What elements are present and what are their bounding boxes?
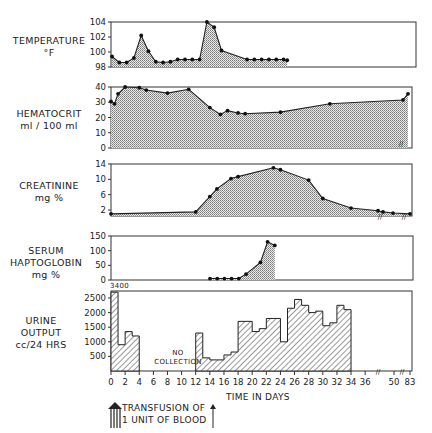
temperature-label: TEMPERATURE°F — [0, 35, 98, 59]
svg-text:100: 100 — [90, 246, 106, 256]
temperature-point — [154, 60, 158, 64]
svg-text:30: 30 — [95, 97, 106, 107]
creatinine-point — [236, 175, 240, 179]
hematocrit-point — [328, 102, 332, 106]
no-collection-annotation: NOCOLLECTION — [138, 349, 218, 367]
svg-text:28: 28 — [303, 377, 314, 387]
temperature-point — [245, 58, 249, 62]
svg-text:50: 50 — [95, 260, 106, 270]
svg-text:14: 14 — [95, 159, 106, 169]
hematocrit-point — [219, 113, 223, 117]
svg-text:1000: 1000 — [84, 337, 106, 347]
svg-text:2: 2 — [101, 205, 106, 215]
temperature-point — [212, 25, 216, 29]
svg-text:2: 2 — [122, 377, 127, 387]
temperature-point — [190, 58, 194, 62]
hematocrit-point — [236, 111, 240, 115]
temperature-point — [139, 34, 143, 38]
svg-text:1500: 1500 — [84, 322, 106, 332]
svg-text:34: 34 — [346, 377, 357, 387]
creatinine-point — [321, 197, 325, 201]
hematocrit-point — [137, 86, 141, 90]
svg-text://: // — [376, 368, 381, 376]
svg-text:98: 98 — [95, 62, 106, 72]
svg-text://: // — [399, 140, 404, 148]
temperature-point — [183, 58, 187, 62]
temperature-point — [125, 61, 129, 65]
svg-text:20: 20 — [247, 377, 258, 387]
temperature-point — [205, 20, 209, 24]
haptoglobin-point — [266, 240, 270, 244]
svg-text:40: 40 — [95, 82, 106, 92]
urine-bars-segment-1 — [196, 299, 351, 371]
svg-text://: // — [400, 368, 405, 376]
svg-text:22: 22 — [261, 377, 272, 387]
haptoglobin-point — [223, 277, 227, 281]
svg-text:83: 83 — [405, 377, 416, 387]
creatinine-point — [307, 178, 311, 182]
haptoglobin-point — [237, 277, 241, 281]
haptoglobin-point — [259, 261, 263, 265]
overflow-value-label: 3400 — [110, 282, 129, 291]
svg-text:26: 26 — [289, 377, 300, 387]
haptoglobin-point — [215, 277, 219, 281]
hematocrit-point — [113, 102, 117, 106]
svg-text:0: 0 — [108, 377, 113, 387]
svg-text:0: 0 — [101, 143, 106, 153]
temperature-point — [147, 49, 151, 53]
svg-text:14: 14 — [204, 377, 215, 387]
temperature-point — [132, 56, 136, 60]
urine-bars-segment-0 — [111, 292, 139, 371]
temperature-point — [285, 58, 289, 62]
hematocrit-area — [111, 87, 408, 148]
svg-text:8: 8 — [165, 377, 170, 387]
single-arrow-icon — [210, 404, 216, 428]
creatinine-label: CREATININEmg % — [0, 180, 98, 204]
svg-text:2500: 2500 — [84, 293, 106, 303]
hematocrit-point — [226, 109, 230, 113]
temperature-point — [161, 61, 165, 65]
svg-text:16: 16 — [219, 377, 230, 387]
svg-text://: // — [402, 213, 407, 221]
transfusion-legend: TRANSFUSION OF 1 UNIT OF BLOOD — [108, 400, 238, 430]
legend-line-2: 1 UNIT OF BLOOD — [122, 414, 207, 426]
creatinine-area — [111, 168, 410, 216]
urine-label: URINEOUTPUTcc/24 HRS — [0, 315, 82, 351]
svg-text:50: 50 — [389, 377, 400, 387]
hematocrit-point — [279, 110, 283, 114]
temperature-point — [252, 58, 256, 62]
temperature-point — [117, 61, 121, 65]
hematocrit-label: HEMATOCRITml / 100 ml — [0, 108, 98, 132]
svg-text:18: 18 — [233, 377, 244, 387]
hematocrit-point — [187, 87, 191, 91]
hematocrit-point — [123, 85, 127, 89]
hematocrit-point — [109, 100, 113, 104]
svg-text:32: 32 — [332, 377, 343, 387]
creatinine-point — [215, 187, 219, 191]
svg-text:500: 500 — [90, 351, 106, 361]
creatinine-point — [391, 211, 395, 215]
svg-text:6: 6 — [151, 377, 156, 387]
creatinine-point — [194, 210, 198, 214]
hematocrit-point — [208, 106, 212, 110]
creatinine-point — [109, 212, 113, 216]
creatinine-point — [271, 166, 275, 170]
hematocrit-point — [116, 92, 120, 96]
temperature-point — [169, 60, 173, 64]
temperature-point — [198, 58, 202, 62]
svg-text:4: 4 — [137, 377, 142, 387]
hematocrit-point — [144, 88, 148, 92]
svg-text:36: 36 — [360, 377, 371, 387]
creatinine-point — [229, 177, 233, 181]
svg-text:104: 104 — [90, 17, 106, 27]
svg-text:2000: 2000 — [84, 308, 106, 318]
svg-text:12: 12 — [190, 377, 201, 387]
svg-text:0: 0 — [101, 275, 106, 285]
creatinine-point — [349, 206, 353, 210]
transfusion-arrow-icon — [108, 402, 122, 428]
svg-text:6: 6 — [101, 190, 106, 200]
temperature-point — [267, 58, 271, 62]
hematocrit-point — [243, 112, 247, 116]
creatinine-point — [279, 168, 283, 172]
temperature-point — [260, 58, 264, 62]
